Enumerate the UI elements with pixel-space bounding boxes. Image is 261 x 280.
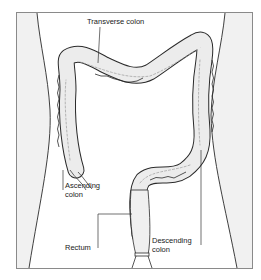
label-descending-colon-line1: Descending: [152, 236, 192, 245]
colon-diagram: [0, 0, 261, 280]
label-descending-colon-line2: colon: [152, 245, 170, 254]
label-rectum: Rectum: [65, 243, 91, 252]
anal-sphincter: [135, 253, 149, 256]
label-ascending-colon-line2: colon: [65, 190, 83, 199]
label-ascending-colon-line1: Ascending: [65, 181, 100, 190]
label-transverse-colon: Transverse colon: [87, 17, 144, 26]
